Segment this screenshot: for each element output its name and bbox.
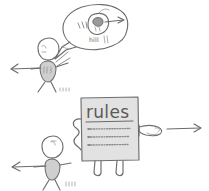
upper-figure-head <box>38 38 59 60</box>
speed-line-1 <box>78 23 80 28</box>
lower-figure-ground-marks <box>66 182 75 186</box>
lower-figure-head <box>42 136 63 158</box>
speed-line-2 <box>82 22 84 28</box>
stick-figure-listening <box>12 136 75 190</box>
pointing-hand-icon <box>139 125 162 136</box>
upper-figure-arm-right <box>56 63 68 67</box>
speech-bubble: hill <box>55 5 128 59</box>
lower-figure-leg-right <box>55 180 60 190</box>
rules-board-title: rules <box>86 102 129 122</box>
upper-figure-ground-marks <box>60 88 69 91</box>
upper-figure-torso <box>40 61 56 82</box>
speech-bubble-tail-crease <box>62 47 69 49</box>
rules-sign: rules <box>73 97 201 176</box>
rules-board-leg-right <box>116 161 123 176</box>
arrow-board-right <box>167 124 201 132</box>
arrow-lower-left <box>12 162 44 171</box>
lower-figure-leg-left <box>43 180 49 190</box>
stick-figure-speaking <box>11 38 70 92</box>
speed-line-3 <box>86 22 87 28</box>
rules-board-left-arm <box>73 119 81 150</box>
bubble-word-stroke-1 <box>104 36 105 43</box>
upper-figure-leg-right <box>51 82 56 92</box>
lower-figure-torso <box>45 159 60 180</box>
arrow-board-right-shaft <box>167 128 200 129</box>
rules-board-leg-left <box>94 161 101 176</box>
bubble-word-stroke-2 <box>107 36 108 43</box>
bubble-speed-lines <box>78 22 87 28</box>
upper-figure-leg-left <box>38 82 45 92</box>
bubble-inner-head <box>93 18 103 27</box>
bubble-inner-top-hook <box>99 9 109 13</box>
sketch-canvas: hill <box>0 0 209 191</box>
hand-drawn-illustration: hill <box>0 0 209 191</box>
bubble-word-label: hill <box>89 36 99 43</box>
arrow-upper-left <box>11 64 39 73</box>
rules-board-legs <box>94 161 123 176</box>
rules-line-3 <box>91 145 128 146</box>
rules-line-2 <box>91 137 129 138</box>
lower-figure-arm-right <box>60 163 71 165</box>
